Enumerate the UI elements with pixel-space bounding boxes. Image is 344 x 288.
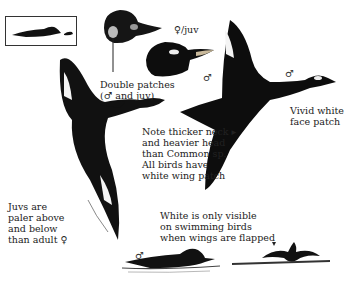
label-thicker-neck: Note thicker neck ▸ and heavier head tha…	[142, 126, 236, 181]
label-male-head: ♂	[203, 72, 212, 83]
label-male-flight: ♂	[285, 68, 294, 79]
label-swimming-male: ♂	[135, 250, 144, 261]
label-double-patches: Double patches (♂ and juv)	[100, 79, 175, 101]
flapping-bird-illustration	[232, 242, 330, 264]
label-vivid-face: Vivid white face patch	[290, 105, 344, 127]
label-white-visible: White is only visible on swimming birds …	[160, 210, 275, 243]
label-female-juv: ♀/juv	[174, 24, 199, 35]
label-juvs-paler: Juvs are paler above and below than adul…	[8, 201, 67, 245]
